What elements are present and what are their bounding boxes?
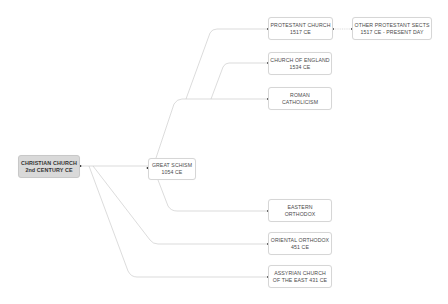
node-roman-catholicism[interactable]: ROMAN CATHOLICISM — [268, 87, 332, 110]
node-label-line1: OTHER PROTESTANT SECTS — [355, 22, 430, 29]
node-church-of-england[interactable]: CHURCH OF ENGLAND 1534 CE — [268, 52, 332, 75]
edge-great-schism-roman-catholicism — [156, 99, 268, 158]
node-label-line1: PROTESTANT CHURCH — [270, 22, 330, 29]
node-label-line2: 1517 CE - PRESENT DAY — [360, 29, 423, 36]
edge-great-schism-protestant — [186, 29, 268, 99]
edge-great-schism-eastern-orthodox — [158, 180, 268, 211]
edge-great-schism-church-of-england — [211, 63, 268, 99]
node-assyrian-church[interactable]: ASSYRIAN CHURCH OF THE EAST 431 CE — [268, 265, 332, 288]
node-great-schism[interactable]: GREAT SCHISM 1054 CE — [148, 158, 196, 180]
node-label-line1: CHRISTIAN CHURCH — [21, 160, 77, 167]
node-label-line1: ROMAN — [290, 92, 310, 99]
node-other-protestant-sects[interactable]: OTHER PROTESTANT SECTS 1517 CE - PRESENT… — [352, 17, 432, 40]
node-eastern-orthodox[interactable]: EASTERN ORTHODOX — [268, 199, 332, 222]
node-label-line2: ORTHODOX — [285, 211, 316, 218]
node-label-line1: GREAT SCHISM — [152, 162, 192, 169]
node-label-line1: ORIENTAL ORTHODOX — [271, 237, 329, 244]
node-label-line2: 1054 CE — [162, 169, 183, 176]
edge-root-assyrian — [89, 166, 268, 277]
node-label-line2: 2nd CENTURY CE — [25, 167, 72, 174]
node-label-line2: 1517 CE — [290, 29, 311, 36]
node-christian-church[interactable]: CHRISTIAN CHURCH 2nd CENTURY CE — [18, 155, 80, 178]
node-label-line1: EASTERN — [287, 204, 312, 211]
node-label-line2: CATHOLICISM — [282, 99, 318, 106]
connector-lines — [0, 0, 448, 304]
node-protestant-church[interactable]: PROTESTANT CHURCH 1517 CE — [268, 17, 333, 40]
node-label-line1: CHURCH OF ENGLAND — [270, 57, 329, 64]
node-oriental-orthodox[interactable]: ORIENTAL ORTHODOX 451 CE — [268, 232, 332, 255]
node-label-line2: 451 CE — [291, 244, 309, 251]
node-label-line2: OF THE EAST 431 CE — [273, 277, 327, 284]
node-label-line2: 1534 CE — [290, 64, 311, 71]
node-label-line1: ASSYRIAN CHURCH — [274, 270, 326, 277]
